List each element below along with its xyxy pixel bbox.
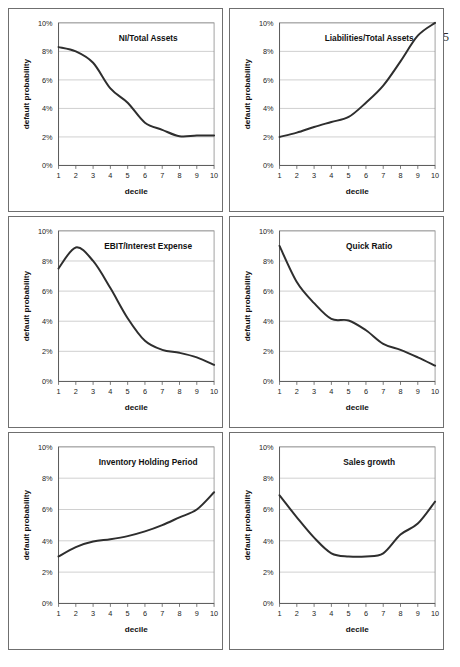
svg-text:6%: 6%	[42, 287, 53, 296]
svg-text:4%: 4%	[263, 317, 274, 326]
svg-text:4: 4	[329, 387, 333, 396]
svg-text:Inventory Holding Period: Inventory Holding Period	[99, 457, 198, 467]
svg-text:8: 8	[177, 387, 181, 396]
svg-text:default probability: default probability	[243, 59, 252, 130]
svg-text:10%: 10%	[259, 19, 274, 28]
svg-text:6: 6	[364, 171, 368, 180]
svg-text:EBIT/Interest Expense: EBIT/Interest Expense	[104, 241, 192, 251]
svg-text:5: 5	[347, 387, 351, 396]
svg-text:Sales growth: Sales growth	[343, 457, 395, 467]
svg-text:10%: 10%	[259, 227, 274, 236]
chart-row-1: 0%2%4%6%8%10%12345678910NI/Total Assetsd…	[8, 8, 444, 212]
chart-panel-liabilities-total-assets[interactable]: 0%2%4%6%8%10%12345678910Liabilities/Tota…	[229, 8, 444, 212]
svg-text:7: 7	[381, 609, 385, 618]
chart-liabilities-total-assets: 0%2%4%6%8%10%12345678910Liabilities/Tota…	[230, 9, 443, 211]
svg-text:2%: 2%	[42, 347, 53, 356]
svg-text:9: 9	[195, 387, 199, 396]
svg-text:7: 7	[381, 387, 385, 396]
svg-text:9: 9	[195, 171, 199, 180]
svg-text:9: 9	[416, 171, 420, 180]
svg-text:0%: 0%	[263, 599, 274, 608]
svg-text:2: 2	[74, 387, 78, 396]
svg-text:10%: 10%	[38, 19, 53, 28]
svg-text:0%: 0%	[42, 599, 53, 608]
svg-text:4: 4	[329, 171, 333, 180]
svg-text:4: 4	[108, 171, 112, 180]
chart-panel-inventory-holding-period[interactable]: 0%2%4%6%8%10%12345678910Inventory Holdin…	[8, 432, 223, 650]
chart-row-3: 0%2%4%6%8%10%12345678910Inventory Holdin…	[8, 432, 444, 650]
svg-text:decile: decile	[346, 187, 369, 196]
chart-panel-quick-ratio[interactable]: 0%2%4%6%8%10%12345678910Quick Ratiodecil…	[229, 216, 444, 428]
svg-text:10: 10	[210, 609, 218, 618]
svg-text:7: 7	[160, 171, 164, 180]
svg-text:2: 2	[295, 171, 299, 180]
svg-text:10: 10	[210, 171, 218, 180]
svg-text:10: 10	[210, 387, 218, 396]
svg-text:2%: 2%	[263, 568, 274, 577]
svg-text:4%: 4%	[42, 537, 53, 546]
svg-text:0%: 0%	[42, 377, 53, 386]
svg-text:8%: 8%	[42, 47, 53, 56]
svg-text:4: 4	[108, 387, 112, 396]
svg-text:6: 6	[143, 387, 147, 396]
svg-text:10%: 10%	[38, 227, 53, 236]
svg-text:8: 8	[398, 171, 402, 180]
svg-text:decile: decile	[346, 625, 369, 634]
bottom-caption-fragment	[0, 660, 460, 667]
svg-text:2%: 2%	[42, 568, 53, 577]
svg-text:2%: 2%	[42, 133, 53, 142]
svg-text:6: 6	[364, 609, 368, 618]
svg-text:5: 5	[347, 171, 351, 180]
svg-text:8: 8	[398, 609, 402, 618]
svg-text:1: 1	[277, 171, 281, 180]
svg-text:decile: decile	[346, 403, 369, 412]
svg-text:10: 10	[431, 171, 439, 180]
svg-text:1: 1	[56, 387, 60, 396]
svg-text:default probability: default probability	[22, 59, 31, 130]
svg-text:6%: 6%	[42, 76, 53, 85]
chart-panel-ni-total-assets[interactable]: 0%2%4%6%8%10%12345678910NI/Total Assetsd…	[8, 8, 223, 212]
svg-text:0%: 0%	[42, 161, 53, 170]
svg-text:4%: 4%	[42, 104, 53, 113]
svg-text:1: 1	[56, 609, 60, 618]
svg-text:8%: 8%	[263, 257, 274, 266]
svg-text:2: 2	[74, 171, 78, 180]
svg-text:10%: 10%	[259, 443, 274, 452]
svg-text:2%: 2%	[263, 347, 274, 356]
svg-text:10: 10	[431, 387, 439, 396]
svg-text:6%: 6%	[263, 505, 274, 514]
svg-text:10%: 10%	[38, 443, 53, 452]
svg-text:6%: 6%	[42, 505, 53, 514]
svg-text:Quick Ratio: Quick Ratio	[346, 241, 392, 251]
svg-text:3: 3	[312, 171, 316, 180]
svg-text:10: 10	[431, 609, 439, 618]
svg-text:4: 4	[329, 609, 333, 618]
chart-quick-ratio: 0%2%4%6%8%10%12345678910Quick Ratiodecil…	[230, 217, 443, 427]
svg-text:6: 6	[143, 609, 147, 618]
svg-text:2: 2	[74, 609, 78, 618]
svg-text:5: 5	[126, 609, 130, 618]
svg-text:decile: decile	[125, 403, 148, 412]
svg-text:8%: 8%	[263, 47, 274, 56]
svg-text:2: 2	[295, 609, 299, 618]
chart-panel-sales-growth[interactable]: 0%2%4%6%8%10%12345678910Sales growthdeci…	[229, 432, 444, 650]
chart-ni-total-assets: 0%2%4%6%8%10%12345678910NI/Total Assetsd…	[9, 9, 222, 211]
svg-text:3: 3	[312, 387, 316, 396]
svg-text:default probability: default probability	[243, 490, 252, 561]
svg-text:4%: 4%	[42, 317, 53, 326]
svg-text:1: 1	[277, 387, 281, 396]
svg-text:9: 9	[416, 609, 420, 618]
svg-text:9: 9	[416, 387, 420, 396]
chart-panel-ebit-interest-expense[interactable]: 0%2%4%6%8%10%12345678910EBIT/Interest Ex…	[8, 216, 223, 428]
svg-text:8: 8	[177, 609, 181, 618]
svg-text:default probability: default probability	[22, 271, 31, 342]
svg-text:3: 3	[312, 609, 316, 618]
svg-text:4%: 4%	[263, 537, 274, 546]
svg-text:default probability: default probability	[243, 271, 252, 342]
svg-text:8%: 8%	[42, 257, 53, 266]
svg-text:5: 5	[126, 387, 130, 396]
svg-text:NI/Total Assets: NI/Total Assets	[119, 33, 178, 43]
svg-text:2: 2	[295, 387, 299, 396]
svg-text:1: 1	[277, 609, 281, 618]
svg-text:default probability: default probability	[22, 490, 31, 561]
